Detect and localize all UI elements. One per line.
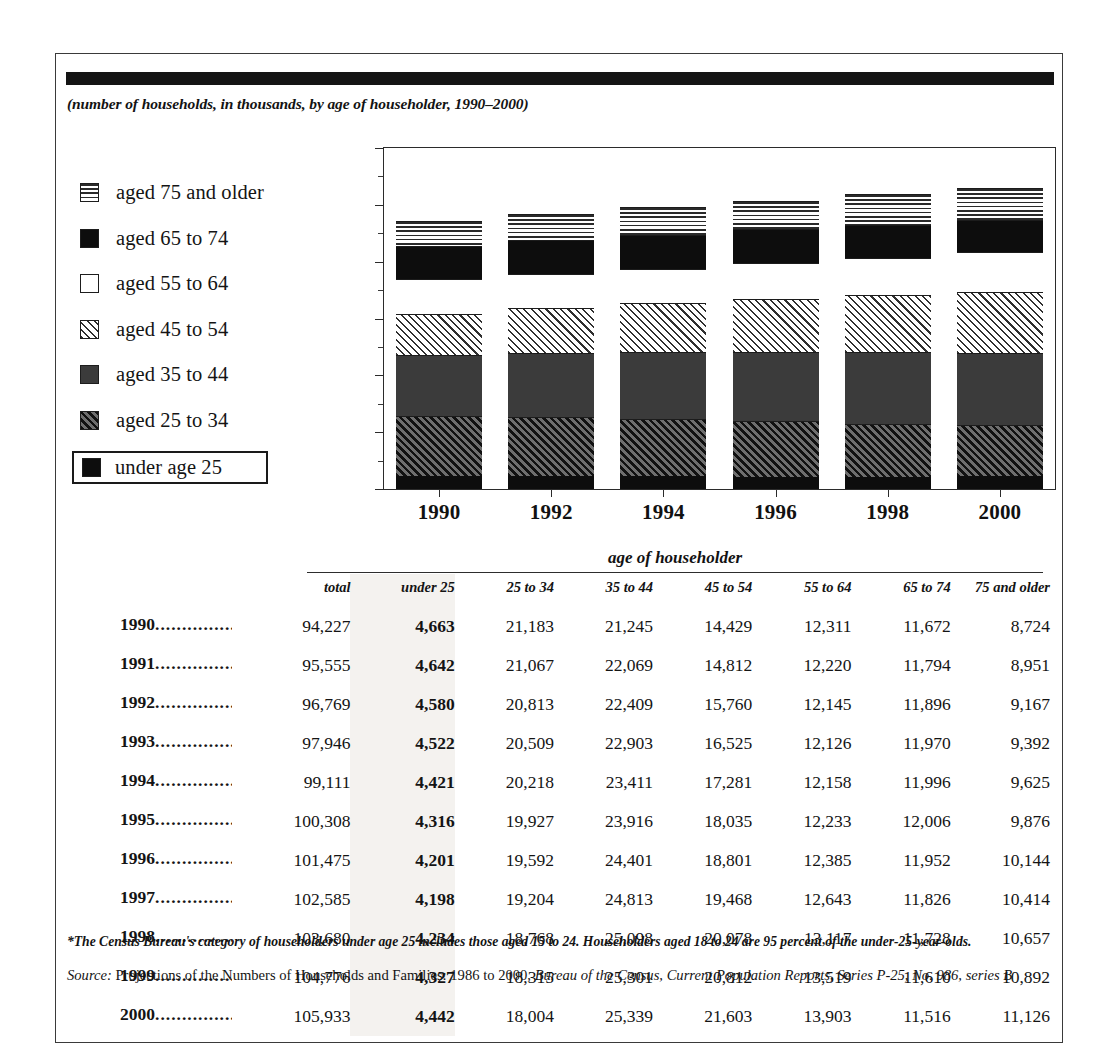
x-axis-label-1996: 1996	[721, 500, 831, 525]
bar-segment-aged-45-to-54	[957, 292, 1043, 353]
bar-1996[interactable]	[733, 201, 819, 489]
solid-black-swatch	[82, 458, 101, 477]
bar-segment-aged-55-to-64	[620, 269, 706, 304]
table-column-header-year	[120, 574, 240, 607]
bar-segment-aged-25-to-34	[733, 421, 819, 477]
table-cell-a25-34: 19,204	[455, 880, 554, 919]
table-row: 1991...............95,5554,64221,06722,0…	[120, 646, 1050, 685]
table-cell-under25: 4,316	[350, 802, 454, 841]
table-cell-a25-34: 21,183	[455, 607, 554, 646]
legend-item-aged-65-to-74[interactable]: aged 65 to 74	[80, 224, 310, 253]
bar-segment-aged-75-and-older	[957, 188, 1043, 220]
table-cell-a65-74: 11,896	[852, 685, 951, 724]
dot-leader: ...............	[155, 848, 232, 868]
table-column-header-45-to-54: 45 to 54	[653, 574, 752, 607]
table-cell-total: 102,585	[240, 880, 350, 919]
bar-segment-aged-25-to-34	[508, 417, 594, 476]
bar-segment-under-age-25	[620, 476, 706, 489]
table-cell-a45-54: 18,035	[653, 802, 752, 841]
table-cell-under25: 4,201	[350, 841, 454, 880]
white-swatch	[80, 274, 99, 293]
table-cell-a35-44: 25,339	[554, 997, 653, 1036]
table-row: 1990...............94,2274,66321,18321,2…	[120, 607, 1050, 646]
dot-leader: ...............	[155, 770, 232, 790]
bar-segment-aged-25-to-34	[845, 424, 931, 477]
table-cell-a75p: 9,167	[951, 685, 1050, 724]
bar-2000[interactable]	[957, 188, 1043, 489]
legend-item-under-age-25[interactable]: under age 25	[72, 451, 268, 484]
x-axis-label-1994: 1994	[608, 500, 718, 525]
table-cell-a75p: 8,724	[951, 607, 1050, 646]
table-row: 1994...............99,1114,42120,21823,4…	[120, 763, 1050, 802]
table-cell-a75p: 9,392	[951, 724, 1050, 763]
bar-segment-aged-65-to-74	[508, 240, 594, 274]
x-axis-label-1992: 1992	[496, 500, 606, 525]
table-row-year-value: 1997	[120, 887, 155, 907]
table-cell-a75p: 10,414	[951, 880, 1050, 919]
bar-segment-aged-75-and-older	[620, 207, 706, 234]
table-cell-a65-74: 12,006	[852, 802, 951, 841]
table-row: 1995...............100,3084,31619,92723,…	[120, 802, 1050, 841]
x-axis-label-1990: 1990	[384, 500, 494, 525]
table-cell-a35-44: 22,069	[554, 646, 653, 685]
legend-item-aged-45-to-54[interactable]: aged 45 to 54	[80, 315, 310, 344]
horizontal-lines-swatch	[80, 183, 99, 202]
bar-segment-aged-25-to-34	[957, 425, 1043, 476]
table-column-header-35-to-44: 35 to 44	[554, 574, 653, 607]
table-row-year: 1996...............	[120, 841, 240, 880]
legend-item-aged-75-and-older[interactable]: aged 75 and older	[80, 178, 310, 207]
table-row: 1993...............97,9464,52220,50922,9…	[120, 724, 1050, 763]
bar-segment-aged-25-to-34	[396, 416, 482, 476]
table-row-year: 1993...............	[120, 724, 240, 763]
table-cell-a55-64: 12,145	[752, 685, 851, 724]
legend-item-aged-25-to-34[interactable]: aged 25 to 34	[80, 406, 310, 435]
dot-leader: ...............	[155, 809, 232, 829]
legend-item-aged-55-to-64[interactable]: aged 55 to 64	[80, 269, 310, 298]
table-cell-a45-54: 19,468	[653, 880, 752, 919]
table-row-year: 1992...............	[120, 685, 240, 724]
table-cell-total: 101,475	[240, 841, 350, 880]
bar-segment-aged-35-to-44	[620, 352, 706, 419]
table-cell-a45-54: 18,801	[653, 841, 752, 880]
table-column-header-75-and-older: 75 and older	[951, 574, 1050, 607]
dot-leader: ...............	[155, 614, 232, 634]
bar-segment-aged-75-and-older	[733, 201, 819, 230]
legend-item-label: aged 25 to 34	[116, 409, 228, 432]
figure-subtitle: (number of households, in thousands, by …	[67, 95, 529, 113]
bar-1994[interactable]	[620, 207, 706, 489]
table-row-year: 1995...............	[120, 802, 240, 841]
x-axis-tick	[888, 490, 889, 497]
y-axis-minor-tick	[378, 347, 383, 348]
legend-item-aged-35-to-44[interactable]: aged 35 to 44	[80, 360, 310, 389]
table-cell-total: 100,308	[240, 802, 350, 841]
bar-1998[interactable]	[845, 194, 931, 489]
solid-black-swatch	[80, 229, 99, 248]
y-axis-tick	[375, 375, 383, 376]
bar-segment-under-age-25	[845, 477, 931, 489]
table-cell-a55-64: 12,385	[752, 841, 851, 880]
table-column-header-55-to-64: 55 to 64	[752, 574, 851, 607]
source-note: Source: Projections of the Numbers of Ho…	[67, 967, 1012, 984]
bar-segment-aged-25-to-34	[620, 419, 706, 476]
table-row-year-value: 1994	[120, 770, 155, 790]
table-cell-a25-34: 20,218	[455, 763, 554, 802]
table-cell-a25-34: 18,004	[455, 997, 554, 1036]
table-column-header-total: total	[240, 574, 350, 607]
table-row-year-value: 1996	[120, 848, 155, 868]
bar-1990[interactable]	[396, 221, 482, 489]
bar-segment-aged-75-and-older	[396, 221, 482, 246]
table-cell-total: 95,555	[240, 646, 350, 685]
table-cell-a25-34: 19,592	[455, 841, 554, 880]
table-cell-a45-54: 16,525	[653, 724, 752, 763]
bar-segment-under-age-25	[733, 477, 819, 489]
table-group-rule	[307, 572, 1043, 573]
bar-segment-aged-55-to-64	[845, 258, 931, 295]
table-footnote: *The Census Bureau's category of househo…	[67, 934, 971, 950]
x-axis-tick	[663, 490, 664, 497]
table-cell-a55-64: 12,126	[752, 724, 851, 763]
table-cell-a35-44: 24,813	[554, 880, 653, 919]
bar-segment-under-age-25	[396, 476, 482, 489]
bar-1992[interactable]	[508, 214, 594, 489]
table-cell-a25-34: 19,927	[455, 802, 554, 841]
table-cell-a75p: 11,126	[951, 997, 1050, 1036]
